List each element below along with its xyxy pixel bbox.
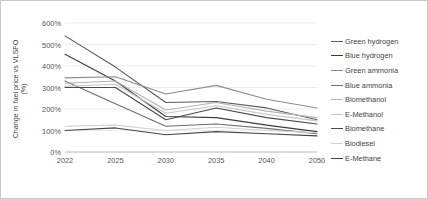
x-axis-tick-label: 2050 <box>309 156 325 165</box>
x-axis-ticks: 202220252030203520402050 <box>65 156 317 170</box>
series-line <box>65 81 317 118</box>
y-axis-tick-label: 500% <box>7 40 61 49</box>
legend-swatch-icon <box>331 41 343 42</box>
legend-swatch-icon <box>331 55 343 56</box>
x-axis-tick-label: 2030 <box>158 156 174 165</box>
chart-figure: Change in fuel price vs VLSFO (%) 0%100%… <box>0 0 428 199</box>
plot-area <box>65 23 317 152</box>
chart-canvas <box>65 23 317 152</box>
x-axis-tick-label: 2025 <box>107 156 123 165</box>
legend-item[interactable]: Biodiesel <box>331 136 426 151</box>
legend-item-label: E-Methanol <box>345 110 383 119</box>
legend-swatch-icon <box>331 158 343 159</box>
legend-item-label: Biomethanol <box>345 95 386 104</box>
x-axis-tick-label: 2022 <box>57 156 73 165</box>
y-axis-ticks: 0%100%200%300%400%500%600% <box>3 23 61 152</box>
y-axis-tick-label: 100% <box>7 126 61 135</box>
x-axis-tick-label: 2035 <box>208 156 224 165</box>
legend-swatch-icon <box>331 99 343 100</box>
legend-item-label: Green ammonia <box>345 66 398 75</box>
y-axis-tick-label: 600% <box>7 19 61 28</box>
legend-item-label: Biomethane <box>345 124 384 133</box>
legend-item[interactable]: E-Methane <box>331 151 426 166</box>
legend-item[interactable]: Green ammonia <box>331 63 426 78</box>
legend-item-label: Blue ammonia <box>345 81 392 90</box>
series-line <box>65 36 317 120</box>
y-axis-tick-label: 200% <box>7 105 61 114</box>
y-axis-tick-label: 300% <box>7 83 61 92</box>
legend-swatch-icon <box>331 70 343 71</box>
legend-item-label: E-Methane <box>345 154 381 163</box>
legend-item[interactable]: Biomethane <box>331 122 426 137</box>
legend-swatch-icon <box>331 128 343 129</box>
chart-legend: Green hydrogenBlue hydrogenGreen ammonia… <box>331 34 426 165</box>
legend-item[interactable]: Biomethanol <box>331 92 426 107</box>
legend-item[interactable]: Blue hydrogen <box>331 49 426 64</box>
legend-item-label: Green hydrogen <box>345 37 398 46</box>
legend-item[interactable]: Blue ammonia <box>331 78 426 93</box>
legend-swatch-icon <box>331 85 343 86</box>
legend-swatch-icon <box>331 114 343 115</box>
legend-item[interactable]: Green hydrogen <box>331 34 426 49</box>
y-axis-tick-label: 0% <box>7 148 61 157</box>
y-axis-tick-label: 400% <box>7 62 61 71</box>
legend-item-label: Blue hydrogen <box>345 51 393 60</box>
x-axis-tick-label: 2040 <box>258 156 274 165</box>
legend-item[interactable]: E-Methanol <box>331 107 426 122</box>
legend-swatch-icon <box>331 143 343 144</box>
legend-item-label: Biodiesel <box>345 139 375 148</box>
